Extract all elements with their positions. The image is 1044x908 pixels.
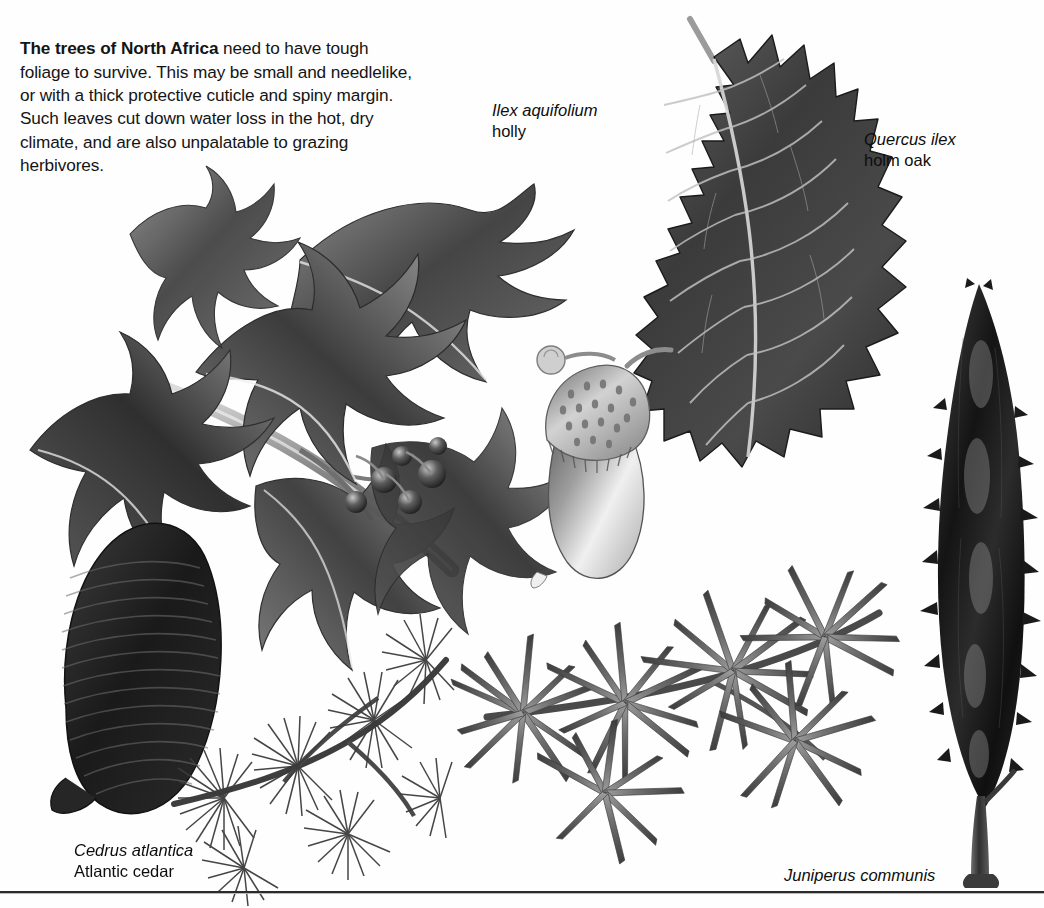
caption-holm-oak-common-name: holm oak	[864, 150, 956, 171]
caption-holly-scientific-name: Ilex aquifolium	[492, 100, 597, 121]
caption-holly: Ilex aquifolium holly	[492, 100, 597, 142]
caption-holm-oak: Quercus ilex holm oak	[864, 129, 956, 171]
cedar-cone-and-needles-illustration	[48, 498, 458, 888]
caption-atlantic-cedar: Cedrus atlantica Atlantic cedar	[74, 840, 193, 882]
page-bottom-rule	[0, 891, 1044, 893]
caption-holm-oak-scientific-name: Quercus ilex	[864, 129, 956, 150]
columnar-tree-illustration	[915, 278, 1044, 893]
caption-holly-common-name: holly	[492, 121, 597, 142]
caption-atlantic-cedar-common-name: Atlantic cedar	[74, 861, 193, 882]
illustration-plate: The trees of North Africa need to have t…	[0, 0, 1044, 908]
caption-juniper-scientific-name: Juniperus communis	[784, 865, 935, 886]
caption-juniper: Juniperus communis	[784, 865, 935, 886]
caption-atlantic-cedar-scientific-name: Cedrus atlantica	[74, 840, 193, 861]
juniper-sprig-illustration	[465, 545, 895, 880]
intro-lead: The trees of North Africa	[20, 38, 218, 58]
